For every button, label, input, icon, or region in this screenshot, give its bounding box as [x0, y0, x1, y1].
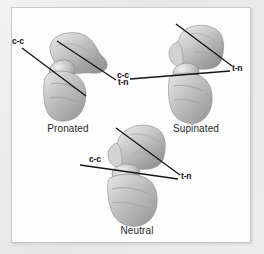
specimen-pronated: c-c t-n Pronated: [20, 28, 128, 128]
cc-label-neutral: c-c: [89, 154, 101, 164]
bone-illustration-supinated: [144, 22, 248, 128]
tn-label-supinated: t-n: [232, 63, 242, 73]
bone-illustration-pronated: [20, 28, 128, 128]
specimen-supinated: c-c t-n Supinated: [144, 22, 248, 128]
caption-neutral: Neutral: [82, 225, 192, 236]
cc-label-pronated: c-c: [12, 36, 24, 46]
specimen-neutral: c-c t-n Neutral: [84, 121, 194, 231]
tn-label-neutral: t-n: [181, 171, 191, 181]
bone-illustration-neutral: [84, 121, 194, 231]
figure-root: c-c t-n Pronated: [0, 0, 264, 254]
cc-label-supinated: c-c: [117, 70, 129, 80]
figure-panel: c-c t-n Pronated: [11, 7, 251, 243]
